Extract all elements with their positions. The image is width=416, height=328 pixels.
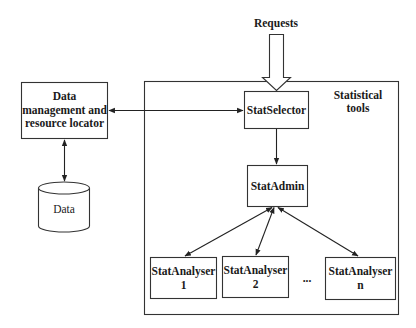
data-management-label-line3: resource locator xyxy=(25,117,104,129)
stat-analyser-1-node: StatAnalyser 1 xyxy=(151,258,217,299)
stat-analyser-1-label-line1: StatAnalyser xyxy=(152,265,216,278)
stat-admin-label: StatAdmin xyxy=(251,180,305,192)
stat-analyser-2-node: StatAnalyser 2 xyxy=(223,257,289,298)
architecture-diagram: Statistical tools Requests Data manageme… xyxy=(0,0,416,328)
data-store-node: Data xyxy=(39,182,90,232)
stat-admin-node: StatAdmin xyxy=(248,166,308,207)
stat-analyser-1-box xyxy=(151,258,217,299)
statistical-tools-label-line1: Statistical xyxy=(334,89,383,101)
stat-analyser-n-label-line2: n xyxy=(357,279,364,291)
requests-block-arrow-icon xyxy=(263,35,291,91)
ellipsis-label: ... xyxy=(303,272,312,284)
data-store-label: Data xyxy=(53,203,75,215)
stat-analyser-n-node: StatAnalyser n xyxy=(326,258,396,300)
stat-analyser-2-box xyxy=(223,257,289,298)
stat-selector-label: StatSelector xyxy=(247,104,306,116)
stat-analyser-n-label-line1: StatAnalyser xyxy=(329,265,393,278)
requests-label: Requests xyxy=(254,17,299,30)
stat-analyser-2-label-line1: StatAnalyser xyxy=(224,264,288,277)
data-management-node: Data management and resource locator xyxy=(22,83,108,139)
data-management-label-line2: management and xyxy=(22,104,107,117)
stat-selector-node: StatSelector xyxy=(245,92,309,129)
statistical-tools-label-line2: tools xyxy=(347,102,371,114)
data-management-label-line1: Data xyxy=(53,90,77,102)
stat-analyser-1-label-line2: 1 xyxy=(181,279,187,291)
requests-input: Requests xyxy=(254,17,299,91)
stat-analyser-2-label-line2: 2 xyxy=(253,278,259,290)
